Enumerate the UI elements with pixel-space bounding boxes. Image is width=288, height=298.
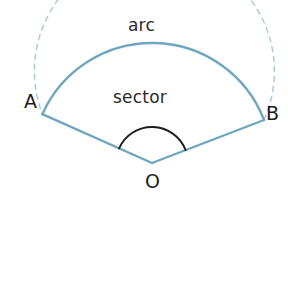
point-a-label: A: [24, 92, 37, 111]
sector-diagram: arc sector A B O: [0, 0, 288, 298]
sector-label: sector: [113, 89, 167, 106]
point-o-label: O: [145, 172, 160, 191]
geometry-canvas: [0, 0, 288, 298]
point-b-label: B: [266, 104, 279, 123]
arc-label: arc: [128, 17, 155, 34]
